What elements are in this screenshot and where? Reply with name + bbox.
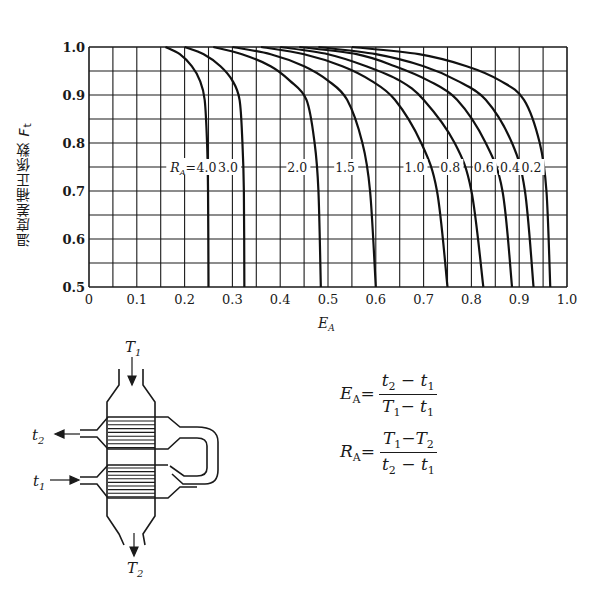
- formula-RA: RA= T1−T2 t2 − t1: [340, 428, 438, 478]
- label-t1: t1: [33, 472, 45, 492]
- x-tick: 0.9: [509, 292, 530, 307]
- ra-curve-labels: RA=4.03.02.01.51.00.80.60.40.2: [166, 158, 544, 177]
- y-tick: 0.7: [62, 184, 85, 199]
- formula-EA: EA= t2 − t1 T1− t1: [340, 370, 437, 420]
- x-tick: 0.8: [461, 292, 482, 307]
- ft-correction-chart: 00.10.20.30.40.50.60.70.80.91.00.50.60.7…: [0, 0, 608, 594]
- x-tick: 0.4: [270, 292, 291, 307]
- y-axis-label: 温度差補正係数 Ft: [14, 85, 36, 285]
- x-tick: 0.7: [413, 292, 434, 307]
- ra-value-label: 1.5: [335, 160, 355, 175]
- tube-lines: [108, 421, 155, 497]
- ra-value-label: 0.2: [522, 160, 542, 175]
- x-tick: 0: [85, 292, 93, 307]
- y-tick: 1.0: [62, 40, 85, 55]
- x-tick: 0.6: [365, 292, 386, 307]
- x-tick: 0.2: [174, 292, 195, 307]
- ra-value-label: 2.0: [287, 160, 307, 175]
- label-T2: T2: [127, 559, 143, 579]
- x-axis-label: EA: [317, 315, 335, 333]
- y-tick: 0.8: [62, 136, 85, 151]
- ra-value-label: 3.0: [218, 160, 238, 175]
- ra-value-label: 0.4: [500, 160, 520, 175]
- ra-value-label: 4.0: [197, 160, 217, 175]
- x-tick: 0.3: [222, 292, 243, 307]
- x-tick: 0.5: [318, 292, 339, 307]
- x-tick: 1.0: [557, 292, 578, 307]
- flow-arrows: [50, 357, 138, 556]
- ra-value-label: 1.0: [404, 160, 424, 175]
- y-tick: 0.6: [62, 232, 85, 247]
- y-tick: 0.5: [62, 280, 85, 295]
- heat-exchanger-diagram: [80, 369, 218, 545]
- label-T1: T1: [125, 338, 141, 358]
- ra-value-label: 0.8: [440, 160, 460, 175]
- x-tick: 0.1: [126, 292, 147, 307]
- label-t2: t2: [32, 426, 44, 446]
- ra-value-label: 0.6: [474, 160, 494, 175]
- y-tick: 0.9: [62, 88, 85, 103]
